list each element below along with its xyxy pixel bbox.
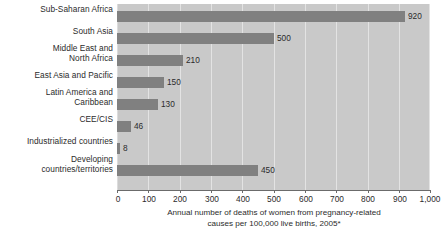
gridline-400: [242, 4, 243, 190]
x-tick-400: [242, 190, 243, 193]
x-tick-label-500: 500: [267, 194, 281, 204]
bar-value-developing-countries: 450: [261, 165, 275, 176]
x-tick-label-300: 300: [205, 194, 219, 204]
bar-industrialized-countries: [117, 143, 120, 154]
x-tick-0: [117, 190, 118, 193]
category-label-industrialized-countries: Industrialized countries: [0, 137, 113, 147]
category-label-south-asia: South Asia: [0, 27, 113, 37]
category-label-east-asia-pacific: East Asia and Pacific: [0, 71, 113, 81]
x-tick-label-600: 600: [299, 194, 313, 204]
gridline-0: [117, 4, 118, 190]
gridline-900: [399, 4, 400, 190]
gridline-700: [336, 4, 337, 190]
bar-value-cee-cis: 46: [134, 121, 143, 132]
x-tick-label-800: 800: [361, 194, 375, 204]
category-label-middle-east-north-africa: Middle East and North Africa: [0, 44, 113, 63]
category-label-cee-cis: CEE/CIS: [0, 115, 113, 125]
bar-east-asia-pacific: [117, 77, 164, 88]
bar-latin-america-caribbean: [117, 99, 158, 110]
x-tick-800: [368, 190, 369, 193]
x-tick-label-100: 100: [142, 194, 156, 204]
x-tick-300: [211, 190, 212, 193]
bar-developing-countries: [117, 165, 258, 176]
x-tick-label-0: 0: [116, 194, 121, 204]
gridline-100: [148, 4, 149, 190]
category-label-sub-saharan-africa: Sub-Saharan Africa: [0, 5, 113, 15]
bar-value-sub-saharan-africa: 920: [408, 11, 422, 22]
bar-value-middle-east-north-africa: 210: [186, 55, 200, 66]
gridline-800: [368, 4, 369, 190]
x-tick-1000: [430, 190, 431, 193]
x-tick-label-900: 900: [393, 194, 407, 204]
gridline-300: [211, 4, 212, 190]
category-label-developing-countries: Developing countries/territories: [0, 155, 113, 174]
bar-middle-east-north-africa: [117, 55, 183, 66]
bar-value-east-asia-pacific: 150: [167, 77, 181, 88]
x-tick-200: [180, 190, 181, 193]
bar-south-asia: [117, 33, 274, 44]
x-tick-label-400: 400: [236, 194, 250, 204]
x-tick-700: [336, 190, 337, 193]
bar-value-latin-america-caribbean: 130: [161, 99, 175, 110]
x-tick-600: [305, 190, 306, 193]
x-tick-label-1000: 1,000: [420, 194, 441, 204]
category-label-column: Sub-Saharan Africa South Asia Middle Eas…: [0, 0, 113, 192]
bar-chart: Sub-Saharan Africa South Asia Middle Eas…: [0, 0, 445, 234]
bar-value-industrialized-countries: 8: [123, 143, 128, 154]
x-axis-caption: Annual number of deaths of women from pr…: [117, 208, 431, 229]
gridline-600: [305, 4, 306, 190]
gridline-500: [274, 4, 275, 190]
x-tick-label-700: 700: [330, 194, 344, 204]
gridline-1000: [429, 4, 430, 190]
plot-area: 920 500 210 150 130 46 8 450: [117, 4, 430, 190]
x-tick-100: [148, 190, 149, 193]
x-tick-500: [274, 190, 275, 193]
bar-value-south-asia: 500: [277, 33, 291, 44]
bar-sub-saharan-africa: [117, 11, 405, 22]
category-label-latin-america-caribbean: Latin America and Caribbean: [0, 88, 113, 107]
x-tick-label-200: 200: [173, 194, 187, 204]
gridline-200: [180, 4, 181, 190]
bar-cee-cis: [117, 121, 131, 132]
x-tick-900: [399, 190, 400, 193]
